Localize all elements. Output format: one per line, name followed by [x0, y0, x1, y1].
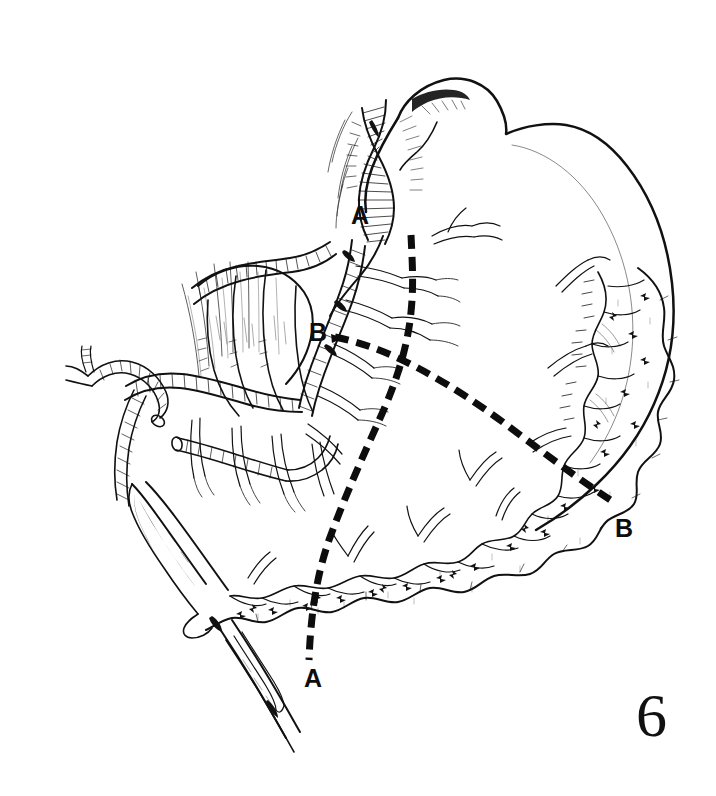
- label-a-top: A: [351, 203, 369, 228]
- label-b-left: B: [309, 320, 327, 345]
- figure-illustration-panel: .ln { fill:none; stroke:#111111; stroke-…: [0, 0, 716, 796]
- canvas-background: [0, 0, 716, 796]
- label-a-bottom: A: [304, 666, 322, 691]
- figure-number: 6: [636, 684, 667, 746]
- label-b-right: B: [615, 516, 633, 541]
- anatomical-line-drawing: .ln { fill:none; stroke:#111111; stroke-…: [0, 0, 716, 796]
